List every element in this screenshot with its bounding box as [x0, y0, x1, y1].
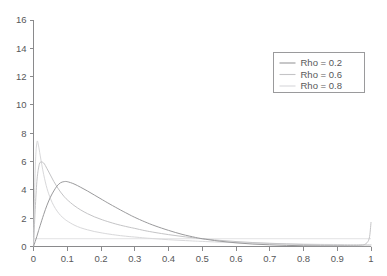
x-tick-label: 0.7 [263, 253, 276, 264]
legend[interactable]: Rho = 0.2Rho = 0.6Rho = 0.8 [274, 53, 365, 93]
legend-label: Rho = 0.8 [301, 80, 342, 91]
legend-label: Rho = 0.2 [301, 57, 342, 68]
x-tick-label: 0.5 [196, 253, 209, 264]
x-tick-label: 0.6 [229, 253, 242, 264]
x-tick-label: 0.2 [94, 253, 107, 264]
x-tick-label: 0.4 [162, 253, 175, 264]
legend-label: Rho = 0.6 [301, 69, 342, 80]
y-tick-label: 6 [21, 156, 26, 167]
x-tick-label: 0.8 [297, 253, 310, 264]
x-tick-label: 0.1 [61, 253, 74, 264]
y-tick-label: 12 [16, 71, 27, 82]
x-tick-label: 0.9 [331, 253, 344, 264]
plot-background [0, 0, 387, 276]
y-tick-label: 2 [21, 213, 26, 224]
x-tick-label: 1 [368, 253, 373, 264]
y-tick-label: 16 [16, 14, 27, 25]
density-plot-svg: 0246810121416 00.10.20.30.40.50.60.70.80… [0, 0, 387, 276]
y-tick-label: 0 [21, 241, 26, 252]
x-tick-label: 0.3 [128, 253, 141, 264]
chart-container: 0246810121416 00.10.20.30.40.50.60.70.80… [0, 0, 387, 276]
x-tick-label: 0 [31, 253, 36, 264]
y-tick-label: 4 [21, 184, 26, 195]
y-tick-label: 8 [21, 128, 26, 139]
y-tick-label: 10 [16, 99, 27, 110]
y-tick-label: 14 [16, 43, 27, 54]
